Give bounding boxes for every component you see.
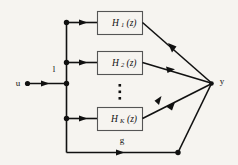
block-h1-subscript: 1 [121,21,124,28]
input-terminal-dot [25,81,30,86]
junction-dot-input [64,81,69,86]
arrowhead-input [41,81,50,87]
arrowhead-branch-k [79,116,88,122]
junction-dot-branch-2 [64,60,69,65]
block-hk-subscript: K [119,117,125,124]
block-hk-arg: (z) [127,114,137,125]
block-h1-name: H [111,18,120,28]
output-summing-node [209,81,214,86]
junction-dot-branch-k [64,116,69,121]
junction-dot-branch-1 [64,20,69,25]
arrowhead-feedthrough-out [155,96,162,105]
block-h2-name: H [111,58,120,68]
arrowhead-branch-1 [79,20,88,26]
input-label-u: u [16,78,21,88]
block-hk-name: H [110,114,119,124]
feedthrough-label-g: g [120,135,125,145]
arrowhead-branch-2 [79,60,88,66]
wire-hk-out [143,84,212,119]
block-diagram: u l g H 1 (z) H 2 (z [0,0,238,165]
output-label-y: y [220,76,225,86]
wire-feedthrough-to-output [178,85,211,153]
block-h1-arg: (z) [126,18,136,29]
vertical-ellipsis-icon [119,84,122,100]
arrowhead-feedthrough [116,150,125,156]
arrowhead-hk-out [166,102,175,110]
diagram-canvas: u l g H 1 (z) H 2 (z [0,0,238,165]
branch-label-l: l [53,64,56,74]
block-h2-arg: (z) [126,58,136,69]
